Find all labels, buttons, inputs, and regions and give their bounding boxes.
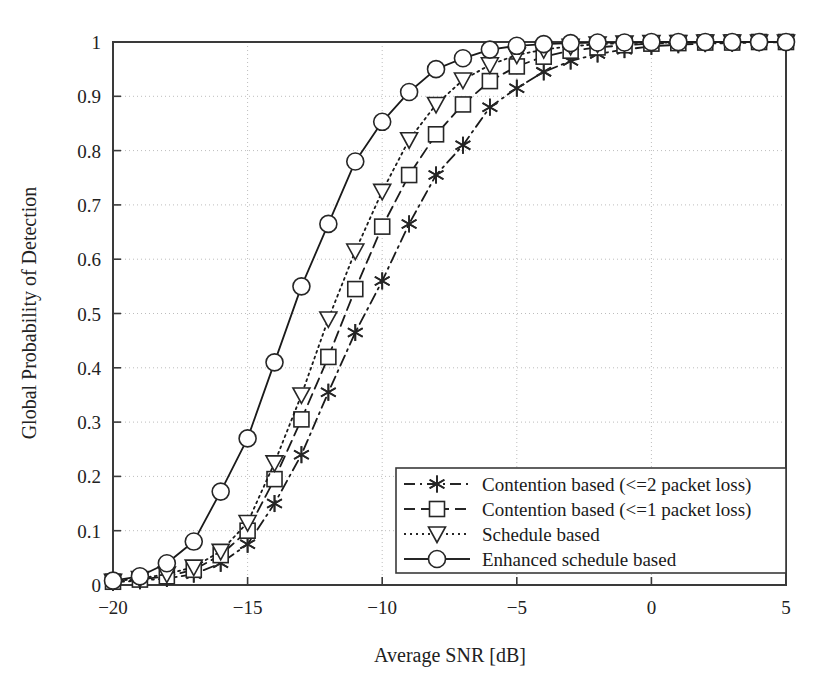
data-marker-circle bbox=[616, 34, 633, 51]
data-marker-circle bbox=[105, 572, 122, 589]
data-marker-circle bbox=[724, 34, 741, 51]
y-tick-label: 0.8 bbox=[77, 141, 101, 162]
data-marker-circle bbox=[158, 555, 175, 572]
y-tick-label: 0.4 bbox=[77, 358, 101, 379]
legend-item-label: Schedule based bbox=[482, 524, 600, 545]
legend[interactable]: Contention based (<=2 packet loss)Conten… bbox=[396, 468, 786, 573]
data-marker-circle bbox=[751, 34, 768, 51]
data-marker-square bbox=[402, 168, 417, 183]
data-marker-square bbox=[321, 349, 336, 364]
y-tick-label: 0.5 bbox=[77, 304, 101, 325]
x-tick-label: −20 bbox=[98, 597, 128, 618]
data-marker-square bbox=[429, 127, 444, 142]
data-marker-circle bbox=[535, 36, 552, 53]
y-tick-label: 0.3 bbox=[77, 412, 101, 433]
x-axis-label: Average SNR [dB] bbox=[374, 644, 526, 667]
data-marker-square bbox=[455, 97, 470, 112]
data-marker-circle bbox=[508, 37, 525, 54]
data-marker-circle bbox=[131, 568, 148, 585]
y-tick-label: 0 bbox=[92, 575, 102, 596]
data-marker-circle bbox=[347, 153, 364, 170]
data-marker-square bbox=[482, 74, 497, 89]
data-marker-circle bbox=[481, 41, 498, 58]
y-tick-label: 1 bbox=[92, 32, 102, 53]
x-tick-label: −15 bbox=[233, 597, 263, 618]
data-marker-circle bbox=[429, 551, 446, 568]
data-marker-square bbox=[430, 502, 445, 517]
x-tick-label: −5 bbox=[507, 597, 527, 618]
data-marker-circle bbox=[643, 34, 660, 51]
data-marker-circle bbox=[697, 34, 714, 51]
data-marker-circle bbox=[266, 354, 283, 371]
data-marker-circle bbox=[212, 483, 229, 500]
data-marker-square bbox=[294, 412, 309, 427]
x-tick-label: −10 bbox=[367, 597, 397, 618]
figure-container: −20−15−10−50500.10.20.30.40.50.60.70.80.… bbox=[0, 0, 827, 684]
data-marker-circle bbox=[293, 278, 310, 295]
y-tick-label: 0.9 bbox=[77, 86, 101, 107]
legend-item-label: Contention based (<=2 packet loss) bbox=[482, 474, 751, 496]
data-marker-circle bbox=[562, 35, 579, 52]
legend-item-label: Contention based (<=1 packet loss) bbox=[482, 499, 751, 521]
data-marker-circle bbox=[185, 533, 202, 550]
y-tick-label: 0.7 bbox=[77, 195, 101, 216]
y-tick-label: 0.2 bbox=[77, 466, 101, 487]
data-marker-circle bbox=[239, 430, 256, 447]
data-marker-circle bbox=[428, 61, 445, 78]
data-marker-circle bbox=[670, 34, 687, 51]
data-marker-circle bbox=[320, 215, 337, 232]
y-tick-label: 0.1 bbox=[77, 521, 101, 542]
data-marker-square bbox=[375, 219, 390, 234]
chart-svg: −20−15−10−50500.10.20.30.40.50.60.70.80.… bbox=[0, 0, 827, 684]
data-marker-circle bbox=[454, 50, 471, 67]
data-marker-circle bbox=[778, 34, 795, 51]
x-tick-label: 5 bbox=[781, 597, 791, 618]
y-axis-label: Global Probability of Detection bbox=[18, 187, 41, 440]
y-tick-label: 0.6 bbox=[77, 249, 101, 270]
legend-item-label: Enhanced schedule based bbox=[482, 549, 677, 570]
x-tick-label: 0 bbox=[647, 597, 657, 618]
data-marker-circle bbox=[401, 83, 418, 100]
data-marker-square bbox=[348, 282, 363, 297]
data-marker-circle bbox=[374, 113, 391, 130]
data-marker-circle bbox=[589, 34, 606, 51]
